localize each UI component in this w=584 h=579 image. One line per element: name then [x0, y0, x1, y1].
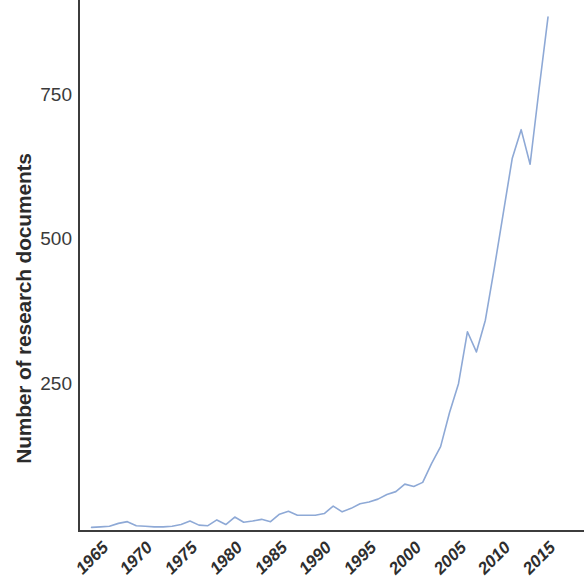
series-line [92, 17, 548, 527]
